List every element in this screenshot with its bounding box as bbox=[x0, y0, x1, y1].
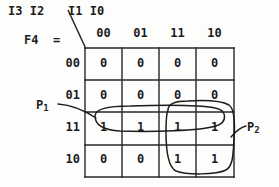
group-p1-leader bbox=[58, 104, 96, 118]
group-label-p1: P1 bbox=[36, 98, 49, 112]
kmap-figure: I3 I2 I1 I0 F4 = 00 01 11 10 00 01 11 10… bbox=[0, 0, 279, 187]
group-label-p2: P2 bbox=[247, 120, 260, 134]
group-p2-rect bbox=[166, 101, 234, 174]
group-p1-oval bbox=[95, 105, 225, 131]
group-label-p2-sub: 2 bbox=[254, 125, 259, 135]
group-p2-leader bbox=[231, 126, 246, 137]
group-label-p1-sub: 1 bbox=[43, 103, 48, 113]
group-overlays bbox=[0, 0, 279, 187]
